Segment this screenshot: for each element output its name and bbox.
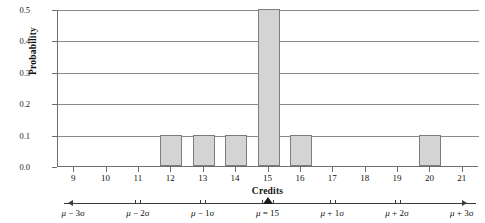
y-axis-tick-label: 0.2 — [19, 99, 30, 109]
y-axis-tick-label: 0.3 — [19, 68, 30, 78]
x-axis-tick-mark — [106, 167, 107, 172]
x-axis-tick-label: 9 — [58, 173, 88, 183]
mean-marker-label: μ = 15 — [228, 208, 308, 218]
bar — [225, 135, 247, 166]
sigma-axis-tick — [273, 200, 274, 203]
sigma-axis-tick — [135, 200, 136, 203]
x-axis-tick-label: 17 — [317, 173, 347, 183]
sigma-axis-label: μ + 3σ — [422, 208, 485, 218]
x-axis-tick-label: 11 — [123, 173, 153, 183]
sigma-axis-tick — [200, 200, 201, 203]
y-axis-tick-label: 0.0 — [19, 162, 30, 172]
x-axis-tick-label: 16 — [285, 173, 315, 183]
bar — [160, 135, 182, 166]
sigma-axis-tick — [140, 200, 141, 203]
x-axis-tick-label: 12 — [155, 173, 185, 183]
x-axis-tick-mark — [462, 167, 463, 172]
y-axis-tick-label: 0.4 — [19, 36, 30, 46]
y-axis-title: Probability — [28, 0, 38, 111]
sigma-axis-tick — [205, 200, 206, 203]
x-axis-tick-mark — [268, 167, 269, 172]
bar — [419, 135, 441, 166]
y-axis-tick-mark — [52, 167, 57, 168]
x-axis-tick-label: 20 — [414, 173, 444, 183]
bar — [290, 135, 312, 166]
x-axis-tick-label: 15 — [253, 173, 283, 183]
bar — [258, 9, 280, 166]
x-axis-tick-label: 19 — [382, 173, 412, 183]
sigma-axis-tick — [400, 200, 401, 203]
sigma-axis-tick — [395, 200, 396, 203]
x-axis-tick-label: 10 — [91, 173, 121, 183]
bar — [193, 135, 215, 166]
plot-area — [57, 10, 478, 167]
x-axis-tick-label: 13 — [188, 173, 218, 183]
mean-marker-triangle-icon — [263, 197, 273, 204]
y-axis-tick-label: 0.5 — [19, 5, 30, 15]
x-axis-tick-mark — [300, 167, 301, 172]
y-axis-tick-label: 0.1 — [19, 131, 30, 141]
sigma-axis-tick — [335, 200, 336, 203]
probability-histogram-chart: Probability 0.00.10.20.30.40.5 910111213… — [0, 0, 485, 223]
x-axis-tick-mark — [235, 167, 236, 172]
x-axis-tick-mark — [170, 167, 171, 172]
x-axis-tick-mark — [203, 167, 204, 172]
x-axis-tick-mark — [397, 167, 398, 172]
x-axis-tick-mark — [429, 167, 430, 172]
sigma-axis-right-arrow — [462, 200, 467, 206]
x-axis-tick-label: 21 — [447, 173, 477, 183]
x-axis-title: Credits — [208, 186, 328, 196]
sigma-axis-left-arrow — [68, 200, 73, 206]
x-axis-tick-mark — [365, 167, 366, 172]
x-axis-tick-mark — [73, 167, 74, 172]
sigma-axis-tick — [330, 200, 331, 203]
x-axis-tick-mark — [138, 167, 139, 172]
x-axis-tick-label: 18 — [350, 173, 380, 183]
x-axis-tick-mark — [332, 167, 333, 172]
x-axis-tick-label: 14 — [220, 173, 250, 183]
